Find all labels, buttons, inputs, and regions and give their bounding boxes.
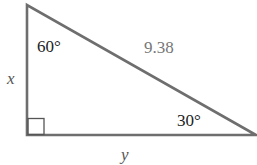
angle-60-label: 60° [37,37,61,56]
triangle-diagram: 60° 9.38 x 30° y [0,0,257,165]
triangle [27,5,256,135]
hypotenuse-label: 9.38 [144,38,174,57]
right-angle-marker [28,119,44,135]
side-x-label: x [6,69,15,88]
angle-30-label: 30° [177,111,201,130]
side-y-label: y [119,145,129,164]
